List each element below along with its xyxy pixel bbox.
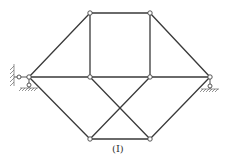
wall-hatch xyxy=(10,66,14,86)
member-B2-R xyxy=(150,77,210,139)
truss-diagram: (I) xyxy=(0,0,231,162)
ground-hatch xyxy=(19,88,37,91)
truss-members xyxy=(29,13,210,139)
ground-hatch xyxy=(200,89,218,92)
truss-joints xyxy=(27,11,212,141)
member-L-T1 xyxy=(29,13,90,77)
link-hinge xyxy=(208,84,212,88)
link-hinge xyxy=(27,83,31,87)
joint-T1 xyxy=(88,11,92,15)
link-hinge xyxy=(17,75,21,79)
member-T2-R xyxy=(150,13,210,77)
joint-M2 xyxy=(148,75,152,79)
joint-T2 xyxy=(148,11,152,15)
figure-caption: (I) xyxy=(112,143,124,154)
truss-drawing xyxy=(0,0,231,162)
joint-B2 xyxy=(148,137,152,141)
joint-R xyxy=(208,75,212,79)
joint-B1 xyxy=(88,137,92,141)
joint-L xyxy=(27,75,31,79)
joint-M1 xyxy=(88,75,92,79)
member-L-B1 xyxy=(29,77,90,139)
